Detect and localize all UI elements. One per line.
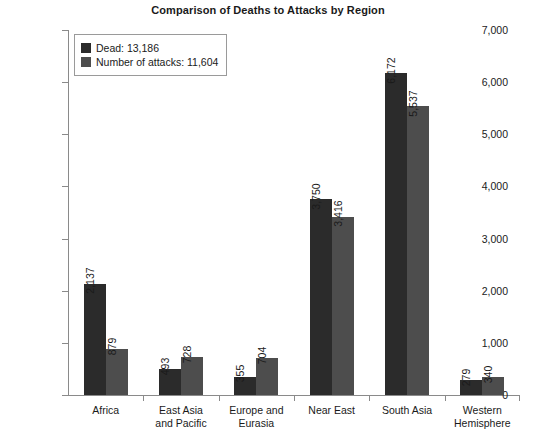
y-tick bbox=[62, 343, 68, 344]
bar: 728 bbox=[181, 357, 203, 395]
y-axis-line bbox=[68, 30, 69, 395]
legend-swatch-dead bbox=[81, 43, 91, 53]
legend-item-attacks: Number of attacks: 11,604 bbox=[81, 56, 218, 68]
bar: 5,537 bbox=[407, 106, 429, 395]
bar-value-label: 493 bbox=[160, 358, 171, 376]
legend-label-dead: Dead: 13,186 bbox=[96, 42, 159, 54]
bar-group: 3,7503,416 bbox=[310, 30, 354, 395]
legend-label-attacks: Number of attacks: 11,604 bbox=[96, 56, 218, 68]
bar-group: 6,1725,537 bbox=[385, 30, 429, 395]
y-tick bbox=[62, 82, 68, 83]
bar: 704 bbox=[256, 358, 278, 395]
bar-value-label: 3,416 bbox=[332, 201, 343, 227]
x-axis-label: South Asia bbox=[369, 404, 444, 417]
x-tick bbox=[294, 395, 295, 401]
bar-value-label: 6,172 bbox=[386, 57, 397, 83]
bar-value-label: 879 bbox=[106, 337, 117, 355]
x-tick bbox=[369, 395, 370, 401]
y-tick bbox=[62, 239, 68, 240]
bar-value-label: 5,537 bbox=[408, 90, 419, 116]
bar-value-label: 728 bbox=[182, 345, 193, 363]
bar: 279 bbox=[460, 380, 482, 395]
bar-rect bbox=[385, 73, 407, 395]
bar-group: 279340 bbox=[460, 30, 504, 395]
plot-area: 01,0002,0003,0004,0005,0006,0007,000 2,1… bbox=[68, 30, 520, 395]
bar-value-label: 355 bbox=[235, 365, 246, 383]
bar: 355 bbox=[234, 377, 256, 396]
bar: 2,137 bbox=[84, 284, 106, 395]
x-tick bbox=[445, 395, 446, 401]
bar-value-label: 3,750 bbox=[310, 183, 321, 209]
x-axis-label: East Asia and Pacific bbox=[143, 404, 218, 429]
bar-group: 355704 bbox=[234, 30, 278, 395]
x-axis-label: Europe and Eurasia bbox=[219, 404, 294, 429]
chart-container: Comparison of Deaths to Attacks by Regio… bbox=[0, 0, 536, 440]
bar-rect bbox=[407, 106, 429, 395]
chart-title: Comparison of Deaths to Attacks by Regio… bbox=[0, 4, 536, 16]
x-axis-label: Africa bbox=[68, 404, 143, 417]
bar-value-label: 704 bbox=[257, 347, 268, 365]
x-axis-label: Near East bbox=[294, 404, 369, 417]
bar-value-label: 2,137 bbox=[84, 267, 95, 293]
bar: 6,172 bbox=[385, 73, 407, 395]
bar-rect bbox=[310, 199, 332, 395]
y-tick bbox=[62, 186, 68, 187]
bar: 340 bbox=[482, 377, 504, 395]
legend-item-dead: Dead: 13,186 bbox=[81, 42, 218, 54]
legend-swatch-attacks bbox=[81, 57, 91, 67]
bar: 493 bbox=[159, 369, 181, 395]
x-tick bbox=[219, 395, 220, 401]
bar: 3,750 bbox=[310, 199, 332, 395]
bar-rect bbox=[106, 349, 128, 395]
x-tick bbox=[143, 395, 144, 401]
x-axis-label: Western Hemisphere bbox=[445, 404, 520, 429]
x-axis-end-tick bbox=[519, 395, 520, 401]
y-tick bbox=[62, 30, 68, 31]
bar-group: 2,137879 bbox=[84, 30, 128, 395]
bar-group: 493728 bbox=[159, 30, 203, 395]
bar-rect bbox=[332, 217, 354, 395]
y-tick bbox=[62, 291, 68, 292]
bar-rect bbox=[84, 284, 106, 395]
bar: 879 bbox=[106, 349, 128, 395]
chart-legend: Dead: 13,186 Number of attacks: 11,604 bbox=[74, 34, 227, 76]
y-tick bbox=[62, 134, 68, 135]
bar: 3,416 bbox=[332, 217, 354, 395]
y-tick bbox=[62, 395, 68, 396]
bar-value-label: 279 bbox=[461, 369, 472, 387]
bar-value-label: 340 bbox=[483, 366, 494, 384]
